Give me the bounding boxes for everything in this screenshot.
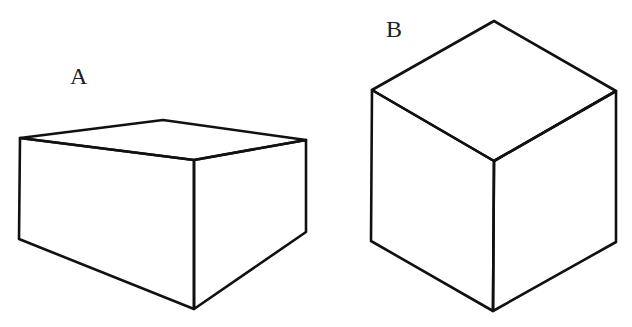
shape-label-a: A <box>70 64 87 88</box>
box-a <box>19 120 306 309</box>
box-b-left-face <box>371 90 494 311</box>
box-b <box>371 21 616 311</box>
box-b-right-face <box>493 91 616 311</box>
box-a-right-face <box>194 140 306 309</box>
box-a-top-face <box>20 120 306 160</box>
box-a-left-face <box>19 138 194 309</box>
figure-canvas <box>0 0 632 327</box>
shape-label-b: B <box>386 17 402 41</box>
box-b-top-face <box>372 21 616 161</box>
